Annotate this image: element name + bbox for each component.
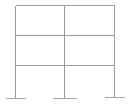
frame-drawing: [0, 0, 128, 111]
columns: [16, 6, 115, 99]
frame-diagram: [0, 0, 128, 111]
